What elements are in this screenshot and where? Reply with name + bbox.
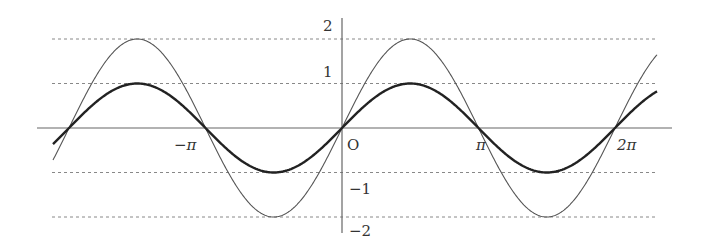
y-tick-label-minus2: −2 [349, 222, 371, 240]
y-tick-label-2: 2 [323, 17, 333, 35]
y-tick-label-1: 1 [323, 63, 333, 81]
x-tick-label-2pi: 2π [616, 136, 638, 154]
x-tick-label-pi: π [475, 136, 487, 154]
y-tick-label-minus1: −1 [349, 180, 371, 198]
sine-graph: 2 1 −1 −2 O −π π 2π [0, 0, 703, 248]
origin-label: O [347, 136, 359, 154]
x-tick-label-minus-pi: −π [174, 136, 198, 154]
